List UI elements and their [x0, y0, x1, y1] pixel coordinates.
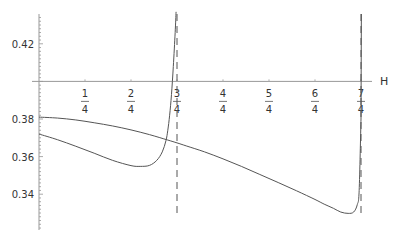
x-tick-label: 64 [311, 88, 319, 115]
svg-text:4: 4 [128, 104, 134, 115]
svg-text:5: 5 [266, 88, 272, 99]
x-axis-label: H [380, 75, 388, 88]
y-axis-ticks [39, 17, 43, 228]
svg-text:4: 4 [220, 88, 226, 99]
svg-text:2: 2 [128, 88, 134, 99]
x-axis-tick-labels: 14243444546474 [81, 88, 365, 115]
y-tick-label: 0.36 [12, 152, 34, 163]
x-tick-label: 24 [127, 88, 135, 115]
x-tick-label: 54 [265, 88, 273, 115]
y-axis-tick-labels: 0.420.380.360.34 [12, 39, 34, 200]
svg-text:4: 4 [220, 104, 226, 115]
x-tick-label: 44 [219, 88, 227, 115]
svg-text:4: 4 [266, 104, 272, 115]
series-curve-A [39, 117, 361, 213]
chart-canvas: 0.420.380.360.34 14243444546474 H [0, 0, 399, 238]
y-tick-label: 0.34 [12, 189, 34, 200]
y-tick-label: 0.42 [12, 39, 34, 50]
svg-text:4: 4 [82, 104, 88, 115]
series-curve-B [39, 12, 176, 167]
svg-text:1: 1 [82, 88, 88, 99]
x-tick-label: 14 [81, 88, 89, 115]
y-tick-label: 0.38 [12, 114, 34, 125]
svg-text:4: 4 [312, 104, 318, 115]
svg-text:6: 6 [312, 88, 318, 99]
